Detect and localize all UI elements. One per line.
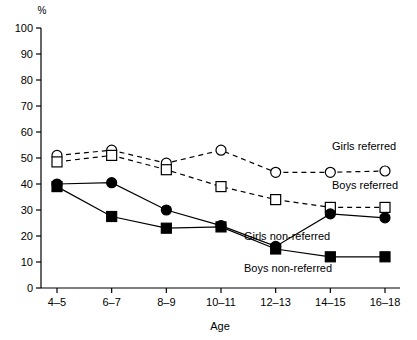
x-tick-label: 6–7 [102,296,120,308]
marker-girls-referred [380,166,390,176]
marker-boys-referred [52,157,62,167]
x-tick-label: 14–15 [315,296,346,308]
marker-girls-referred [271,167,281,177]
marker-boys-non-referred [107,212,117,222]
x-tick-label: 10–11 [206,296,236,308]
y-tick-label: 20 [21,230,33,242]
chart-container: 0102030405060708090100 4–56–78–910–1112–… [0,0,417,340]
marker-boys-referred [380,202,390,212]
marker-girls-referred [216,145,226,155]
chart-background [0,0,417,340]
marker-boys-non-referred [380,252,390,262]
marker-boys-non-referred [216,222,226,232]
x-axis-title: Age [210,320,230,332]
marker-girls-non-referred [107,178,117,188]
y-tick-label: 10 [21,256,33,268]
y-tick-label: 100 [15,22,33,34]
marker-boys-referred [161,165,171,175]
marker-boys-referred [216,182,226,192]
line-chart: 0102030405060708090100 4–56–78–910–1112–… [0,0,417,340]
y-tick-label: 60 [21,126,33,138]
x-tick-label: 8–9 [157,296,175,308]
annotation-girls-non-referred: Girls non-referred [244,230,330,242]
marker-girls-non-referred [161,205,171,215]
y-tick-label: 0 [27,282,33,294]
marker-boys-non-referred [271,244,281,254]
marker-girls-referred [325,167,335,177]
y-axis-unit-label: % [38,5,47,16]
y-tick-label: 80 [21,74,33,86]
marker-boys-non-referred [161,223,171,233]
y-tick-label: 70 [21,100,33,112]
x-tick-label: 4–5 [48,296,66,308]
y-tick-label: 30 [21,204,33,216]
marker-girls-non-referred [325,209,335,219]
marker-boys-referred [271,195,281,205]
marker-girls-non-referred [380,213,390,223]
marker-boys-non-referred [325,252,335,262]
y-tick-label: 50 [21,152,33,164]
marker-boys-referred [107,150,117,160]
y-tick-label: 90 [21,48,33,60]
annotation-girls-referred: Girls referred [332,140,396,152]
annotation-boys-non-referred: Boys non-referred [244,262,332,274]
y-tick-label: 40 [21,178,33,190]
marker-boys-non-referred [52,182,62,192]
x-tick-label: 16–18 [370,296,401,308]
x-tick-label: 12–13 [260,296,291,308]
annotation-boys-referred: Boys referred [332,179,398,191]
